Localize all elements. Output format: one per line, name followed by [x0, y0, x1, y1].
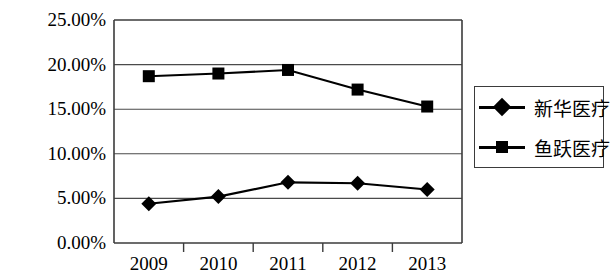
chart-legend: 新华医疗 鱼跃医疗 [474, 86, 604, 168]
data-point-marker [352, 84, 364, 96]
data-point-marker [420, 182, 435, 197]
data-point-marker [212, 68, 224, 80]
y-axis-tick-label: 20.00% [2, 55, 106, 74]
y-axis-tick-label: 15.00% [2, 99, 106, 118]
x-axis-tick-label: 2013 [382, 254, 472, 273]
data-point-marker [211, 189, 226, 204]
legend-marker-square-icon [479, 137, 525, 157]
y-axis-tick-label: 25.00% [2, 10, 106, 29]
data-point-marker [143, 70, 155, 82]
data-point-marker [281, 175, 296, 190]
legend-label-0: 新华医疗 [534, 94, 610, 121]
legend-item-1: 鱼跃医疗 [479, 132, 610, 162]
legend-label-1: 鱼跃医疗 [534, 134, 610, 161]
data-point-marker [282, 64, 294, 76]
data-point-marker [421, 101, 433, 113]
y-axis-tick-label: 0.00% [2, 233, 106, 252]
y-axis-tick-label: 10.00% [2, 144, 106, 163]
data-point-marker [350, 176, 365, 191]
legend-item-0: 新华医疗 [479, 92, 610, 122]
legend-marker-diamond-icon [479, 97, 525, 117]
y-axis-tick-label: 5.00% [2, 188, 106, 207]
